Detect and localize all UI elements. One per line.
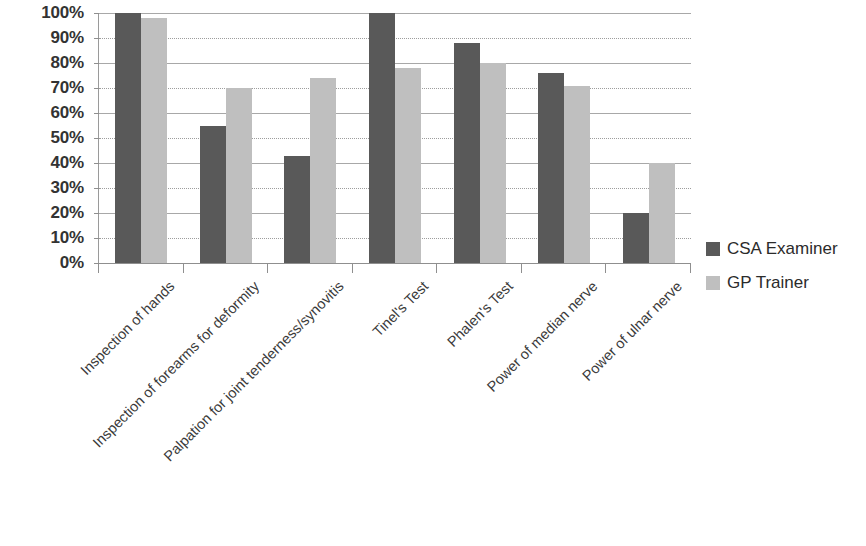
legend-item: CSA Examiner xyxy=(706,232,864,266)
x-axis-label: Palpation for joint tenderness/synovitis xyxy=(160,278,346,464)
legend-label: CSA Examiner xyxy=(727,239,838,259)
legend-item: GP Trainer xyxy=(706,266,864,300)
chart-legend: CSA ExaminerGP Trainer xyxy=(706,232,864,300)
x-axis-label: Tinel's Test xyxy=(370,278,432,340)
x-axis-label: Inspection of hands xyxy=(77,278,177,378)
legend-label: GP Trainer xyxy=(727,273,809,293)
x-axis-label: Inspection of forearms for deformity xyxy=(90,278,263,451)
legend-swatch-icon xyxy=(706,242,720,256)
bar-chart: 0%10%20%30%40%50%60%70%80%90%100% Inspec… xyxy=(0,0,866,546)
x-axis-label: Phalen's Test xyxy=(444,278,516,350)
legend-swatch-icon xyxy=(706,276,720,290)
